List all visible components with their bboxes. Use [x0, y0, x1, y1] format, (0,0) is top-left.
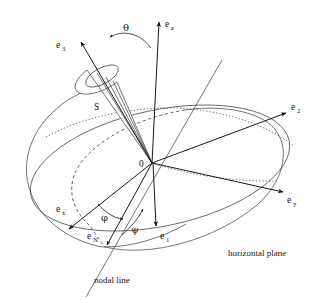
- label-e3-sub: 3: [62, 45, 66, 52]
- label-horizontal-plane: horizontal plane: [228, 248, 286, 258]
- label-e2-sub: 2: [297, 107, 301, 114]
- euler-diagram-canvas: e z e 3 e 2 e y e x e N e 1 S 0 θ: [0, 0, 316, 303]
- label-psi: ψ: [131, 224, 139, 235]
- label-e1-sub: 1: [166, 236, 169, 243]
- spinning-top-cone: [75, 60, 152, 163]
- label-e3-base: e: [56, 40, 60, 50]
- label-eN-sub: N: [93, 236, 98, 243]
- label-origin: 0: [139, 159, 144, 169]
- label-nodal-line: nodal line: [94, 275, 130, 285]
- label-ey-sub: y: [293, 200, 297, 207]
- axis-ey: [152, 163, 283, 192]
- label-e2-base: e: [291, 102, 295, 112]
- label-ez: e z: [165, 19, 174, 31]
- label-e1-base: e: [160, 231, 164, 241]
- label-ez-sub: z: [171, 24, 174, 31]
- axis-eN: [107, 163, 152, 245]
- label-e2: e 2: [291, 102, 301, 114]
- label-e3: e 3: [56, 40, 66, 52]
- label-ex-sub: x: [62, 209, 66, 216]
- angle-arc-theta: [110, 33, 151, 48]
- label-phi: φ: [101, 212, 108, 223]
- label-ey: e y: [287, 195, 297, 207]
- axis-ex: [69, 163, 152, 229]
- label-ez-base: e: [165, 19, 169, 29]
- axis-e3: [81, 42, 152, 163]
- dotted-guide-arcs: [46, 108, 294, 181]
- axis-ez: [152, 22, 159, 163]
- label-ey-base: e: [287, 195, 291, 205]
- label-S: S: [94, 102, 99, 112]
- label-theta: θ: [123, 22, 129, 33]
- euler-angle-figure: e z e 3 e 2 e y e x e N e 1 S 0 θ: [0, 0, 316, 303]
- axis-e1: [153, 163, 156, 226]
- label-eN-base: e: [87, 231, 91, 241]
- label-ex-base: e: [56, 204, 60, 214]
- label-eN: e N: [87, 231, 98, 243]
- label-ex: e x: [56, 204, 66, 216]
- axis-e2: [152, 113, 286, 163]
